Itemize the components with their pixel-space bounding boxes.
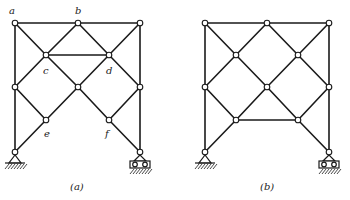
joint-label-d: d: [106, 66, 112, 76]
joint-node: [106, 52, 112, 58]
truss-member: [298, 23, 329, 55]
truss-member: [109, 120, 140, 152]
joint-node: [295, 117, 301, 123]
truss-member: [298, 120, 329, 152]
joint-node: [202, 20, 208, 26]
joint-node: [137, 149, 143, 155]
joint-node: [12, 84, 18, 90]
joint-node: [326, 149, 332, 155]
truss-member: [46, 87, 78, 120]
joint-label-b: b: [75, 6, 81, 16]
joint-node: [12, 149, 18, 155]
truss-member: [267, 23, 298, 55]
truss-member: [15, 120, 46, 152]
joint-node: [202, 84, 208, 90]
joint-node: [202, 149, 208, 155]
joint-node: [12, 20, 18, 26]
truss-member: [267, 87, 298, 120]
truss-member: [298, 55, 329, 87]
joint-label-a: a: [9, 6, 15, 16]
truss-member: [205, 87, 236, 120]
pin-support-icon: [199, 155, 211, 163]
joint-label-c: c: [43, 66, 49, 76]
joint-label-e: e: [44, 129, 50, 139]
caption-a: (a): [70, 182, 84, 192]
joint-node: [326, 20, 332, 26]
truss-member: [78, 55, 109, 87]
truss-member: [15, 23, 46, 55]
truss-member: [46, 23, 78, 55]
truss-a: [5, 20, 152, 174]
joint-node: [137, 84, 143, 90]
truss-member: [298, 87, 329, 120]
truss-diagram: [0, 0, 350, 200]
joint-node: [75, 84, 81, 90]
truss-member: [78, 87, 109, 120]
joint-node: [43, 117, 49, 123]
joint-label-f: f: [105, 129, 109, 139]
truss-member: [15, 55, 46, 87]
truss-member: [15, 87, 46, 120]
joint-node: [137, 20, 143, 26]
joint-node: [75, 20, 81, 26]
truss-member: [205, 120, 236, 152]
pin-support-icon: [9, 155, 21, 163]
truss-member: [236, 55, 267, 87]
truss-member: [267, 55, 298, 87]
truss-member: [78, 23, 109, 55]
joint-node: [326, 84, 332, 90]
truss-member: [46, 55, 78, 87]
truss-member: [109, 55, 140, 87]
caption-b: (b): [260, 182, 274, 192]
joint-node: [264, 20, 270, 26]
joint-node: [295, 52, 301, 58]
roller-support-icon: [323, 155, 335, 161]
joint-node: [264, 84, 270, 90]
joint-node: [106, 117, 112, 123]
truss-member: [109, 87, 140, 120]
joint-node: [233, 117, 239, 123]
joint-node: [233, 52, 239, 58]
truss-b: [195, 20, 341, 174]
joint-node: [43, 52, 49, 58]
truss-member: [205, 55, 236, 87]
truss-member: [236, 23, 267, 55]
truss-member: [109, 23, 140, 55]
truss-member: [205, 23, 236, 55]
truss-member: [236, 87, 267, 120]
roller-support-icon: [134, 155, 146, 161]
